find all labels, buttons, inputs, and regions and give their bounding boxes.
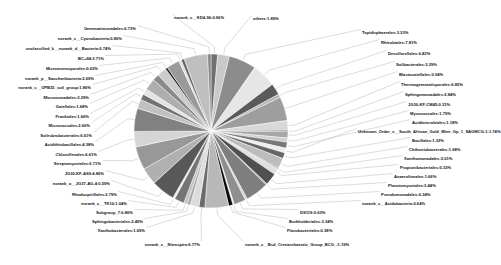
leader-line — [288, 111, 408, 142]
pie-slice-label-tepidisphaerales: Tepidisphaerales:3.33% — [362, 31, 408, 35]
leader-line — [138, 26, 210, 54]
leader-line — [224, 16, 252, 55]
leader-line — [106, 171, 148, 181]
pie-slice-label-anaerolineales: Anaerolineales:1.66% — [394, 175, 436, 179]
pie-slice-label-subgroup-7: Subgroup_7:0.86% — [96, 211, 133, 215]
pie-slice-label-myxococcales: Myxococcales:1.79% — [410, 112, 451, 116]
pie-slice-label-micromonosporales: Micromonosporales:0.63% — [46, 67, 98, 71]
pie-slice-label-norank-c-opb35-soil-group: norank_c__OPB35_soil_group:1.86% — [18, 86, 91, 90]
leader-line — [258, 192, 380, 199]
leader-line — [247, 200, 361, 205]
leader-line — [99, 139, 134, 151]
pie-slice-label-others: others:1.89% — [253, 17, 279, 21]
pie-slice-label-streptomycetales: JG30-KF-AS9:4.86% — [65, 172, 104, 176]
leader-line — [289, 82, 400, 126]
pie-slice-label-norank-c-tk10: norank_c__TK10:1.04% — [81, 202, 127, 206]
leader-line — [277, 165, 398, 176]
leader-line — [279, 156, 403, 173]
pie-slice-label-desulfurellales: Desulfurellales:6.83% — [388, 52, 430, 56]
leader-line — [96, 62, 166, 75]
pie-slice-label-propionibacteriales: Propionibacteriales:0.33% — [400, 166, 451, 170]
pie-slice-label-planctomycetales: Planctomycetales:3.44% — [388, 184, 436, 188]
pie-slice-label-acidithiobacillales: Acidithiobacillales:4.38% — [45, 143, 94, 147]
pie-slice-label-bacillales: Bacillales:1.32% — [412, 139, 444, 143]
pie-slice-label-norank-c-nitrospira: norank_c__Nitrospira:6.77% — [145, 243, 200, 247]
pie-slice-label-solibacterales: Solibacterales:3.29% — [396, 63, 437, 67]
leader-line — [135, 205, 186, 211]
pie-slice-label-sphingomonadales: Sphingomonadales:2.84% — [405, 93, 456, 97]
pie-slice-label-micromonadales: Micromonadales:3.29% — [44, 96, 89, 100]
pie-slice-label-unclassified-bacteria: unclassified_k__norank_d__Bacteria:0.74% — [26, 47, 111, 51]
pie-slice-label-bcg: norank_c__Bsd_Crenarchaeotic_Group_BCG_:… — [245, 243, 349, 247]
pie-slice-label-rhizobiales: Rhizobiales:7.81% — [381, 41, 417, 45]
leader-line — [276, 51, 386, 89]
leader-line — [103, 159, 139, 161]
pie-slice-label-sagmcg-1: Unknown_Order_c__South_African_Gold_Mine… — [358, 130, 501, 134]
pie-slice-label-flavobacteriales: Flavobacteriales:0.38% — [287, 229, 332, 233]
pie-slice-label-pseudomonadales: Pseudomonadales:0.34% — [381, 193, 430, 197]
leader-line — [106, 54, 180, 59]
pie-slice-label-jg30-kf-cm45: JG30-KF-CM45:0.31% — [408, 103, 450, 107]
pie-slice-label-jg30-kf-as9: Streptomycetales:6.71% — [54, 162, 101, 166]
leader-line — [129, 201, 179, 208]
leader-line — [265, 40, 380, 75]
leader-line — [286, 72, 398, 109]
pie-slice-label-chloroflexales: Chloroflexales:6.61% — [56, 153, 97, 157]
pie-slice-label-sphingobacteriales: Sphingobacteriales:2.49% — [92, 220, 143, 224]
leader-line — [124, 36, 196, 55]
pie-slice-label-norank-p-saccharibacteria: norank_p__Saccharibacteria:2.69% — [25, 77, 94, 81]
leader-line — [267, 183, 386, 190]
leader-line — [280, 62, 394, 96]
leader-line — [201, 208, 202, 241]
pie-slice-label-ds119: DS119:0.63% — [300, 211, 325, 215]
pie-slice-label-gaiellales: Gaiellales:1.68% — [56, 105, 88, 109]
pie-slice-label-chthoniobacterales: Chthoniobacterales:1.68% — [409, 148, 460, 152]
leader-line — [100, 58, 173, 66]
leader-line — [285, 138, 411, 159]
leader-line — [91, 88, 144, 113]
pie-slice-label-norank-o-jg37-ag-4: norank_o__JG37-AG-4:0.59% — [53, 182, 110, 186]
leader-line — [96, 119, 134, 142]
pie-slice-label-xanthobacterales: Xanthobacterales:1.69% — [98, 229, 145, 233]
leader-line — [92, 94, 142, 123]
leader-line — [93, 66, 162, 84]
leader-line — [240, 203, 298, 209]
pie-slice-label-norank-c-kd4-96: norank_c__KD4-96:0.96% — [174, 16, 224, 20]
pie-slice-label-rhodospirillales: Rhodospirillales:2.79% — [72, 193, 117, 197]
pie-slice-label-xanthomonadales: Xanthomonadales:3.01% — [404, 157, 452, 161]
pie-slice-label-solirubrobacterales: Solirubrobacterales:6.61% — [40, 134, 92, 138]
pie-slice-label-burkholderiales: Burkholderiales:3.34% — [289, 220, 333, 224]
leader-line — [217, 209, 244, 242]
pie-slice-label-gemmatimonadales: Gemmatimonadales:6.73% — [84, 27, 136, 31]
pie-slice-label-thermogemmatisporales: Thermogemmatisporales:6.85% — [401, 83, 463, 87]
pie-slice-label-bc-84: BC+84:3.71% — [78, 57, 104, 61]
pie-slice-label-micrococcales: Micrococcales:2.60% — [49, 124, 90, 128]
pie-slice-label-acidimicrobiales: Acidimicrobiales:1.18% — [412, 121, 458, 125]
pie-slice-label-blastocatellales: Blastocatellales:0.94% — [399, 73, 443, 77]
pie-slice-label-frankiales: Frankiales:1.66% — [56, 115, 89, 119]
pie-slice-label-norank-c-cyanobacteria: norank_c__Cyanobacteria:0.86% — [58, 37, 122, 41]
leader-line — [243, 30, 360, 60]
leader-line — [113, 46, 183, 59]
leader-line — [173, 15, 215, 54]
pie-slice-label-norank-c-acidobacteria: norank_c__Acidobacteria:6.64% — [362, 202, 425, 206]
